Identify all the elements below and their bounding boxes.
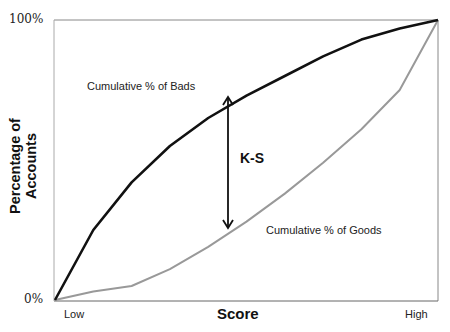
goods-label: Cumulative % of Goods [266,224,382,236]
y-tick-100: 100% [9,12,43,26]
y-axis-label: Percentage of Accounts [7,91,39,241]
ks-arrow [223,97,233,228]
bads-label: Cumulative % of Bads [87,80,195,92]
x-axis-label: Score [217,305,259,322]
y-tick-0: 0% [24,292,43,306]
x-tick-low: Low [64,308,84,320]
ks-label: K-S [240,150,264,166]
ks-chart [0,0,450,332]
x-tick-high: High [405,308,428,320]
